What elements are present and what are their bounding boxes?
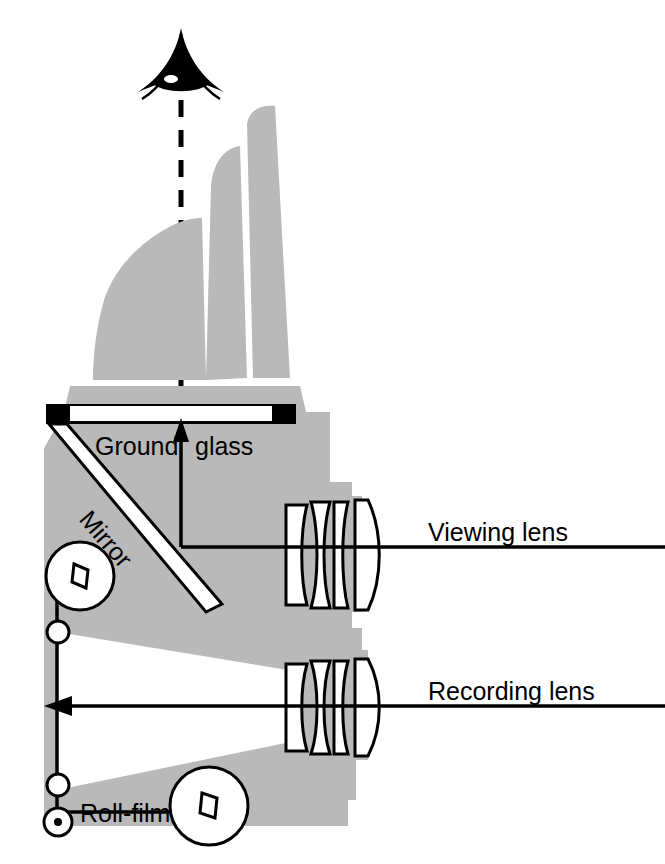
ground-glass-screen [46,404,296,424]
ground-glass-label-part2: glass [195,432,253,460]
film-sprocket [44,808,72,836]
recording-lens-label: Recording lens [428,677,595,705]
viewing-lens-label: Viewing lens [428,518,568,546]
ground-glass-label-part1: Ground [95,432,178,460]
hood-rear-panel [206,146,247,380]
film-roller-lower [47,774,69,796]
film-roller-upper [47,621,69,643]
viewing-lens-group [286,500,379,610]
roll-film-label: Roll-film [80,799,170,827]
film-takeup-spool [170,767,248,845]
tlr-camera-diagram: Ground glass Mirror Viewing lens Recordi… [0,0,665,864]
